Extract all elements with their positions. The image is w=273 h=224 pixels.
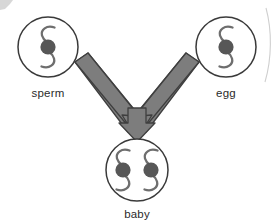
cell-baby: baby [106, 139, 168, 220]
scan-artifact-corner [0, 0, 13, 10]
sperm-label: sperm [32, 87, 65, 99]
merge-arrow [75, 53, 199, 142]
cell-egg: egg [196, 17, 256, 99]
egg-label: egg [216, 87, 236, 99]
cell-sperm: sperm [18, 17, 78, 99]
scan-artifact-edge [265, 8, 270, 82]
diagram-canvas: sperm egg baby [0, 0, 273, 224]
baby-label: baby [124, 208, 150, 220]
fertilization-diagram: sperm egg baby [0, 0, 273, 224]
baby-cell-membrane [106, 139, 168, 201]
